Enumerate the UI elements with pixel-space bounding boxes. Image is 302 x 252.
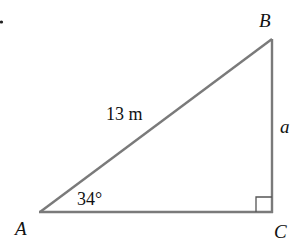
angle-label-a: 34° xyxy=(77,189,102,209)
right-triangle-diagram: B A C a 13 m 34° xyxy=(0,0,302,252)
dot-mark xyxy=(0,20,3,23)
side-label-a: a xyxy=(280,116,290,137)
hypotenuse-ab xyxy=(40,39,272,212)
vertex-label-a: A xyxy=(13,218,27,239)
right-angle-marker xyxy=(256,197,272,212)
vertex-label-c: C xyxy=(274,221,287,242)
vertex-label-b: B xyxy=(259,10,271,31)
hypotenuse-label: 13 m xyxy=(106,104,143,124)
